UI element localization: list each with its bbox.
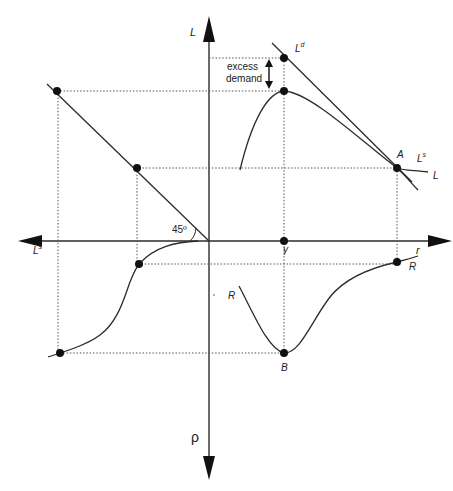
angle-arc — [190, 228, 196, 241]
label-point-a: A — [396, 149, 404, 160]
forty-five-degree-line — [47, 84, 209, 241]
label-right-axis: r — [416, 244, 421, 256]
r-curve — [239, 256, 418, 353]
label-point-b: B — [281, 362, 288, 373]
point-left-top — [53, 87, 61, 95]
arrow-right-icon — [428, 235, 452, 247]
point-a — [393, 164, 401, 172]
label-loan-curve: L — [433, 170, 439, 181]
label-up-axis: L — [190, 26, 196, 38]
point-ld — [280, 54, 288, 62]
point-left-bottom — [56, 349, 64, 357]
axes — [34, 40, 440, 462]
diagram-canvas: L ρ Ls r Ld Ls L A B γ R R excess demand… — [0, 0, 453, 491]
label-demand-word: demand — [226, 73, 262, 84]
point-left-mid — [135, 260, 143, 268]
guide-lines — [57, 58, 397, 353]
label-r-curve-lower: R — [228, 290, 235, 301]
point-b — [280, 349, 288, 357]
point-45-line — [133, 164, 141, 172]
label-demand: Ld — [295, 41, 306, 54]
arrow-up-small-icon — [265, 59, 273, 67]
label-excess: excess — [227, 61, 258, 72]
label-down-axis: ρ — [191, 429, 199, 445]
stray-dot — [213, 294, 215, 296]
label-supply: Ls — [417, 151, 427, 164]
loan-demand-line — [272, 43, 412, 182]
points — [53, 54, 401, 357]
loan-supply-curve — [240, 91, 418, 190]
label-left-axis: Ls — [33, 243, 43, 256]
label-r-curve-right: R — [409, 261, 416, 272]
label-angle: 45º — [172, 224, 187, 235]
lower-left-curve — [48, 241, 198, 357]
arrow-down-icon — [203, 456, 215, 480]
arrow-up-icon — [203, 16, 215, 42]
point-r-right — [393, 258, 401, 266]
four-quadrant-diagram: L ρ Ls r Ld Ls L A B γ R R excess demand… — [0, 0, 453, 491]
point-peak — [280, 87, 288, 95]
label-r-bar: γ — [283, 244, 289, 255]
arrow-down-small-icon — [265, 81, 273, 89]
